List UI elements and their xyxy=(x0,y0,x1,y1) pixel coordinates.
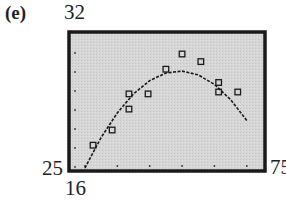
plot-background xyxy=(70,33,264,170)
plot-area xyxy=(0,0,286,201)
